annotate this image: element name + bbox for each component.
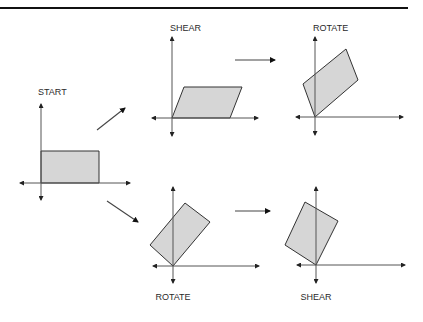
panel-label-shear-bottom: SHEAR bbox=[300, 292, 332, 302]
parallelogram-shape bbox=[172, 87, 242, 118]
panel-shear-top: SHEAR bbox=[152, 23, 258, 136]
panel-rotate-top: ROTATE bbox=[296, 23, 403, 135]
rectangle-shape bbox=[41, 151, 99, 183]
panel-label-rotate-bottom: ROTATE bbox=[155, 292, 190, 302]
transform-order-diagram: START SHEAR ROTATE ROTATE bbox=[0, 0, 423, 322]
arrow-start-to-rotate bbox=[107, 201, 138, 222]
panel-shear-bottom: SHEAR bbox=[285, 187, 405, 302]
rotated-parallelogram-shape bbox=[303, 49, 358, 117]
panel-rotate-bottom: ROTATE bbox=[150, 187, 259, 302]
sheared-rectangle-shape bbox=[285, 202, 338, 265]
panel-label-rotate-top: ROTATE bbox=[313, 23, 348, 33]
arrow-start-to-shear bbox=[97, 108, 125, 130]
panel-start: START bbox=[20, 87, 130, 200]
panel-label-shear-top: SHEAR bbox=[170, 23, 202, 33]
panel-label-start: START bbox=[38, 87, 67, 97]
rotated-rectangle-shape bbox=[150, 203, 210, 266]
